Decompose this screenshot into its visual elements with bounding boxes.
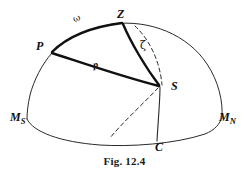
figure-container: Z P S C MS MN ω p ζ Fig. 12.4 (0, 0, 249, 176)
dome-outline-left (27, 53, 52, 119)
label-horizon-south-subscript: S (21, 116, 26, 126)
line-star-to-meridian-foot (157, 87, 160, 141)
label-horizon-north-base: M (219, 110, 230, 124)
arc-zenith-to-star (123, 24, 159, 85)
celestial-sphere-diagram (0, 0, 249, 176)
label-arc-zeta: ζ (140, 40, 146, 51)
arc-pole-to-star (52, 53, 159, 86)
label-star: S (171, 80, 178, 92)
label-pole: P (36, 40, 43, 52)
label-meridian-foot: C (155, 141, 163, 153)
label-horizon-north-subscript: N (230, 116, 236, 126)
label-zenith: Z (117, 8, 124, 20)
figure-caption: Fig. 12.4 (0, 155, 249, 167)
dashed-arc-star-to-horizon (110, 88, 158, 138)
horizon-arc (27, 117, 222, 146)
arc-pole-to-zenith (52, 23, 122, 52)
label-horizon-south: MS (10, 111, 25, 126)
label-horizon-south-base: M (10, 110, 21, 124)
label-horizon-north: MN (219, 111, 236, 126)
